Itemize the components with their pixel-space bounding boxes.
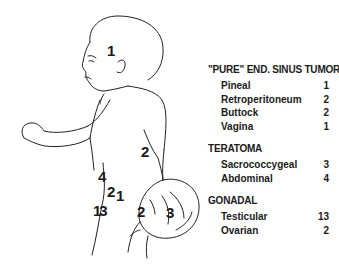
legend-row-label: Buttock (221, 106, 258, 120)
site-label-buttock: 2 (137, 204, 145, 219)
legend-row: Buttock 2 (208, 106, 339, 120)
site-label-head: 1 (107, 43, 115, 58)
legend-row-label: Vagina (221, 120, 253, 134)
legend-group-teratoma: TERATOMA Sacrococcygeal 3 Abdominal 4 (208, 143, 339, 185)
legend-group-title: GONADAL (208, 195, 339, 206)
legend-group-gonadal: GONADAL Testicular 13 Ovarian 2 (208, 195, 339, 237)
legend-row-count: 2 (315, 224, 329, 238)
legend-group-title: TERATOMA (208, 143, 339, 154)
legend-row-label: Retroperitoneum (221, 93, 302, 107)
legend-group-title: "PURE" END. SINUS TUMOR (208, 64, 339, 75)
site-label-sacrococcygeal: 3 (166, 205, 174, 220)
legend-row-count: 1 (315, 120, 329, 134)
legend-row-count: 13 (315, 210, 329, 224)
infant-outline-drawing (0, 0, 210, 265)
legend-row-count: 2 (315, 106, 329, 120)
legend-row: Testicular 13 (208, 210, 339, 224)
legend-row-label: Testicular (221, 210, 268, 224)
legend-row-count: 3 (315, 158, 329, 172)
site-label-pelvis-2: 2 (107, 184, 115, 199)
legend-row-count: 1 (315, 79, 329, 93)
legend-row: Abdominal 4 (208, 172, 339, 186)
site-label-abdomen: 4 (98, 169, 106, 184)
legend-row: Ovarian 2 (208, 224, 339, 238)
legend-row: Vagina 1 (208, 120, 339, 134)
site-label-pelvis-1: 1 (116, 188, 124, 203)
legend-row-label: Abdominal (221, 172, 273, 186)
legend-row-label: Sacrococcygeal (221, 158, 297, 172)
legend-row-count: 2 (315, 93, 329, 107)
legend-row: Retroperitoneum 2 (208, 93, 339, 107)
tumor-site-legend: "PURE" END. SINUS TUMOR Pineal 1 Retrope… (208, 64, 339, 247)
infant-figure: 1 2 4 2 1 13 2 3 (0, 0, 210, 265)
legend-row-label: Ovarian (221, 224, 258, 238)
legend-row: Pineal 1 (208, 79, 339, 93)
legend-row-label: Pineal (221, 79, 250, 93)
site-label-back: 2 (141, 144, 149, 159)
legend-group-pure-eds: "PURE" END. SINUS TUMOR Pineal 1 Retrope… (208, 64, 339, 133)
site-label-testis: 13 (93, 203, 106, 218)
legend-row: Sacrococcygeal 3 (208, 158, 339, 172)
legend-row-count: 4 (315, 172, 329, 186)
